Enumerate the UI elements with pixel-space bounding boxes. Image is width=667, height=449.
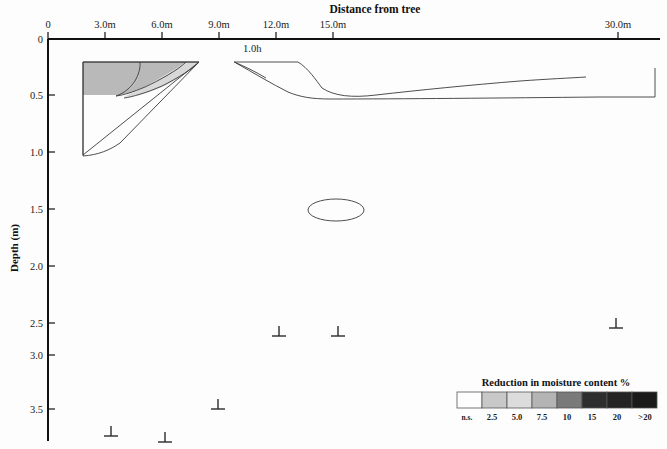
legend-swatch-20 (607, 392, 632, 408)
legend-label-5: 15 (588, 412, 597, 422)
legend-label-7: >20 (638, 412, 651, 422)
legend-label-4: 10 (563, 412, 572, 422)
chart-canvas: Distance from tree 0 3.0m 6.0m 9.0m 12.0… (0, 0, 667, 449)
legend-label-0: n.s. (462, 413, 473, 422)
y-tick-label-2: 1.0 (30, 147, 43, 158)
x-tick-label-2: 6.0m (151, 19, 172, 30)
y-axis-label: Depth (m) (8, 224, 21, 272)
legend-swatch-7-5 (532, 392, 557, 408)
x-tick-label-3: 9.0m (208, 19, 229, 30)
x-tick-label-6: 30.0m (605, 19, 632, 30)
chart-title: Distance from tree (330, 3, 421, 15)
x-tick-label-5: 15.0m (320, 19, 347, 30)
y-tick-label-7: 3.5 (30, 404, 43, 415)
y-tick-label-1: 0.5 (30, 90, 43, 101)
legend-swatch-15 (582, 392, 607, 408)
x-tick-label-0: 0 (45, 19, 50, 30)
y-tick-label-5: 2.5 (30, 318, 43, 329)
x-tick-label-1: 3.0m (94, 19, 115, 30)
legend-swatch-5-0 (507, 392, 532, 408)
legend-swatch-gt20 (632, 392, 657, 408)
legend-swatch-2-5 (482, 392, 507, 408)
legend-swatch-10 (557, 392, 582, 408)
y-tick-label-0: 0 (38, 34, 43, 45)
legend-label-1: 2.5 (487, 412, 498, 422)
y-tick-label-4: 2.0 (30, 261, 43, 272)
x-tick-label-4: 12.0m (263, 19, 290, 30)
y-tick-label-3: 1.5 (30, 204, 43, 215)
legend-label-6: 20 (613, 412, 622, 422)
moisture-reduction-figure: Distance from tree 0 3.0m 6.0m 9.0m 12.0… (0, 0, 667, 449)
contour-label-1h: 1.0h (243, 43, 262, 54)
legend-swatch-ns (457, 392, 482, 408)
legend-title: Reduction in moisture content % (482, 377, 631, 388)
legend-label-2: 5.0 (512, 412, 523, 422)
y-tick-label-6: 3.0 (30, 350, 43, 361)
legend-label-3: 7.5 (537, 412, 548, 422)
